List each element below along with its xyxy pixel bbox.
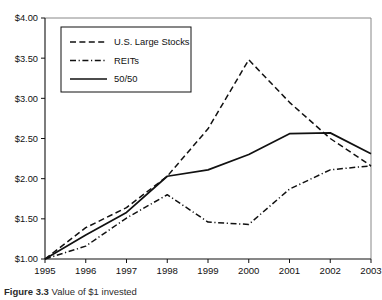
x-tick-label: 1996 (75, 265, 96, 276)
series-line-reits (45, 166, 371, 259)
legend-label-1: U.S. Large Stocks (114, 36, 190, 47)
x-tick-label: 1998 (157, 265, 178, 276)
chart-svg: $1.00$1.50$2.00$2.50$3.00$3.50$4.00 1995… (0, 0, 382, 286)
y-axis-ticks: $1.00$1.50$2.00$2.50$3.00$3.50$4.00 (15, 13, 45, 264)
x-tick-label: 1997 (116, 265, 137, 276)
x-tick-label: 1999 (197, 265, 218, 276)
legend-label-3: 50/50 (114, 73, 137, 84)
x-axis-ticks: 199519961997199819992000200120022003 (34, 259, 381, 276)
y-tick-label: $2.00 (15, 174, 38, 184)
legend-label-2: REITs (114, 55, 139, 66)
x-tick-label: 2000 (238, 265, 259, 276)
caption-strip: Figure 3.3 Value of $1 invested (0, 286, 382, 300)
x-tick-label: 2001 (279, 265, 300, 276)
y-tick-label: $3.50 (15, 54, 38, 64)
figure-caption-text: Value of $1 invested (49, 286, 137, 297)
chart-legend: U.S. Large StocksREITs50/50 (61, 27, 191, 92)
y-tick-label: $4.00 (15, 13, 38, 23)
x-tick-label: 2002 (320, 265, 341, 276)
y-tick-label: $2.50 (15, 134, 38, 144)
y-tick-label: $1.00 (15, 254, 38, 264)
figure-container: $1.00$1.50$2.00$2.50$3.00$3.50$4.00 1995… (0, 0, 382, 300)
y-tick-label: $1.50 (15, 214, 38, 224)
x-tick-label: 2003 (360, 265, 381, 276)
y-tick-label: $3.00 (15, 94, 38, 104)
figure-caption: Figure 3.3 Value of $1 invested (4, 286, 137, 297)
line-chart: $1.00$1.50$2.00$2.50$3.00$3.50$4.00 1995… (0, 0, 382, 286)
figure-caption-label: Figure 3.3 (4, 286, 49, 297)
x-tick-label: 1995 (34, 265, 55, 276)
